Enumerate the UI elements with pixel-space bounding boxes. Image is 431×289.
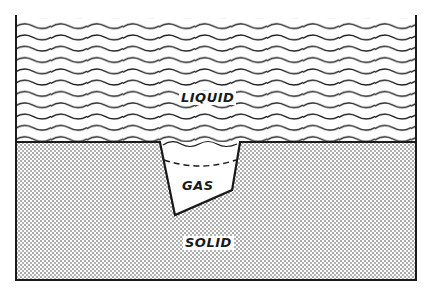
solid-label: SOLID — [183, 236, 234, 250]
gas-label: GAS — [180, 179, 216, 193]
liquid-label: LIQUID — [179, 91, 236, 105]
liquid-region — [16, 18, 416, 142]
